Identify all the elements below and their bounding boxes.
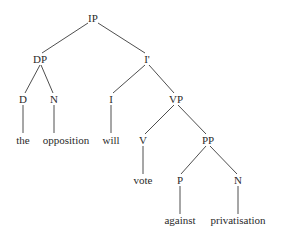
- node-ip: IP: [88, 13, 98, 24]
- word-against: against: [164, 215, 195, 226]
- word-vote: vote: [134, 175, 153, 186]
- node-v: V: [139, 135, 147, 146]
- node-i: I: [109, 94, 113, 105]
- word-will: will: [102, 135, 119, 146]
- node-d: D: [19, 94, 27, 105]
- node-pp: PP: [202, 135, 214, 146]
- node-n-subject: N: [50, 94, 58, 105]
- word-the: the: [16, 135, 29, 146]
- node-dp: DP: [33, 54, 47, 65]
- node-n-object: N: [234, 175, 242, 186]
- node-p: P: [177, 175, 183, 186]
- word-privatisation: privatisation: [211, 215, 266, 226]
- node-vp: VP: [169, 94, 183, 105]
- tree-edges: [0, 0, 281, 240]
- node-i-bar: I': [144, 54, 150, 65]
- word-opposition: opposition: [43, 135, 89, 146]
